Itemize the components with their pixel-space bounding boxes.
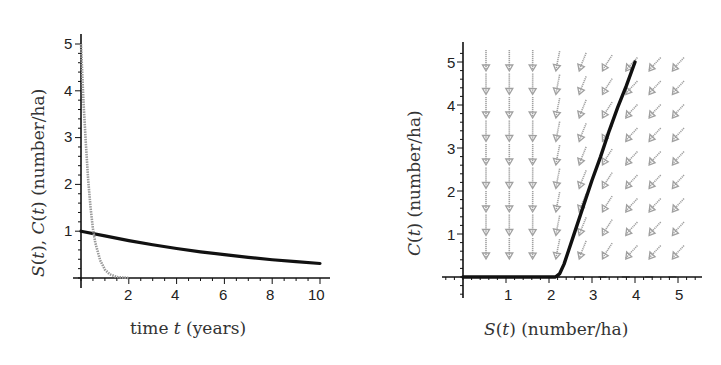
x-axis-title: time t (years) [130, 318, 246, 338]
time-series-plot: 1 2 3 4 5 2 4 6 8 10 time t (years) S(t)… [0, 0, 360, 365]
y-tick-5: 5 [447, 54, 455, 71]
y-axis-title: C(t) (number/ha) [404, 110, 424, 256]
x-tick-2: 2 [124, 286, 132, 303]
y-axis-title: S(t), C(t) (number/ha) [28, 89, 48, 277]
left-tick-labels: 1 2 3 4 5 2 4 6 8 10 [64, 35, 325, 303]
y-tick-4: 4 [64, 82, 72, 99]
y-tick-2: 2 [64, 175, 72, 192]
left-curves [81, 44, 320, 278]
field-arrow-head [529, 135, 536, 141]
field-arrow-head [578, 252, 584, 259]
field-arrow-head [602, 181, 608, 188]
phase-plane-plot: 1 2 3 4 5 1 2 3 4 5 S(t) (number/ha) C(t… [360, 0, 721, 365]
field-arrow-head [602, 64, 608, 71]
trajectory-curve [463, 62, 635, 277]
s-curve [81, 231, 320, 263]
right-axes [442, 42, 702, 298]
left-axes [73, 34, 330, 288]
field-arrow-head [529, 206, 536, 212]
field-arrow-head [578, 88, 584, 95]
x-axis-title: S(t) (number/ha) [484, 319, 628, 339]
x-tick-1: 1 [504, 286, 512, 303]
field-arrow-head [602, 228, 608, 235]
time-series-chart: 1 2 3 4 5 2 4 6 8 10 time t (years) S(t)… [0, 0, 360, 365]
trajectory [463, 62, 635, 277]
field-arrow-head [602, 252, 608, 259]
x-tick-5: 5 [675, 286, 683, 303]
x-tick-3: 3 [589, 286, 597, 303]
y-tick-3: 3 [447, 140, 455, 157]
field-arrow-head [602, 87, 608, 94]
field-arrow-head [578, 111, 584, 118]
x-tick-8: 8 [266, 286, 274, 303]
phase-plane-chart: 1 2 3 4 5 1 2 3 4 5 S(t) (number/ha) C(t… [360, 0, 721, 365]
c-curve [81, 44, 129, 278]
field-arrow-head [578, 135, 584, 142]
y-tick-4: 4 [447, 97, 455, 114]
field-arrow-head [529, 112, 536, 118]
y-tick-3: 3 [64, 128, 72, 145]
y-tick-1: 1 [447, 226, 455, 243]
field-arrow-head [529, 159, 536, 165]
field-arrow-head [602, 111, 608, 118]
field-arrow-head [529, 253, 536, 259]
field-arrow-head [578, 64, 584, 71]
x-tick-10: 10 [308, 286, 325, 303]
field-arrow-head [578, 182, 584, 189]
y-tick-1: 1 [64, 222, 72, 239]
field-arrow-head [529, 229, 536, 235]
field-arrow-head [602, 205, 608, 212]
field-arrow-head [529, 65, 536, 71]
direction-field [482, 50, 684, 277]
field-arrow-head [578, 158, 584, 165]
field-arrow-head [602, 158, 608, 165]
field-arrow-head [578, 229, 584, 236]
y-tick-5: 5 [64, 35, 72, 52]
x-tick-6: 6 [219, 286, 227, 303]
x-tick-4: 4 [632, 286, 640, 303]
x-tick-2: 2 [547, 286, 555, 303]
y-tick-2: 2 [447, 183, 455, 200]
x-tick-4: 4 [171, 286, 179, 303]
field-arrow-head [529, 88, 536, 94]
field-arrow-head [529, 182, 536, 188]
